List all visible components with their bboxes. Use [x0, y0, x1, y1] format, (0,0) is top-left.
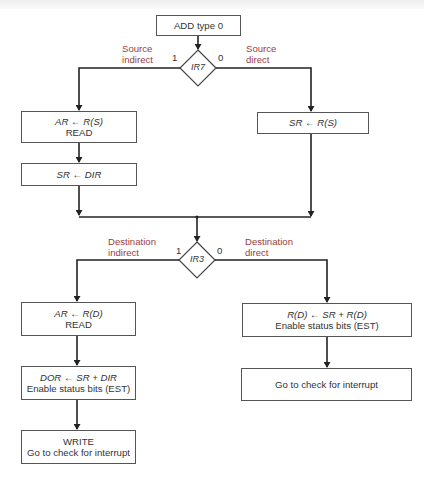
label-line: Destination [245, 236, 293, 247]
label-line: Source [246, 43, 276, 54]
box-line: AR ← R(D) [54, 308, 103, 320]
box-line: READ [65, 319, 92, 331]
arrow-ir7-to-source-direct [216, 68, 311, 111]
box-check-interrupt: Go to check for interrupt [241, 368, 412, 401]
box-line: AR ← R(S) [55, 116, 103, 128]
arrow-ir3-to-dest-indirect [77, 260, 179, 301]
label-destination-indirect: Destination indirect [108, 236, 156, 258]
ir3-true-bit: 1 [176, 245, 181, 256]
box-line: READ [66, 127, 93, 139]
decision-ir7-label: IR7 [183, 62, 213, 72]
label-destination-direct: Destination direct [245, 236, 293, 258]
box-line: WRITE [63, 436, 94, 448]
left-arrow-icon: ← [64, 372, 74, 383]
arrow-ir3-to-dest-direct [215, 260, 327, 302]
left-arrow-icon: ← [73, 169, 83, 180]
left-arrow-icon: ← [305, 117, 315, 128]
box-line: Enable status bits (EST) [275, 320, 378, 332]
ir7-false-bit: 0 [218, 52, 223, 63]
box-text: ADD type 0 [174, 20, 223, 32]
box-line: SR ← R(S) [289, 117, 337, 129]
box-ar-from-rs: AR ← R(S) READ [21, 111, 137, 143]
box-rd-from-sr-plus-rd: R(D) ← SR + R(D) Enable status bits (EST… [242, 303, 412, 337]
label-line: indirect [122, 54, 153, 65]
box-line: Enable status bits (EST) [27, 383, 130, 395]
box-line: DOR ← SR + DIR [40, 372, 117, 384]
left-arrow-icon: ← [70, 308, 80, 319]
label-source-direct: Source direct [246, 43, 276, 65]
box-line: SR ← DIR [57, 169, 102, 181]
label-line: indirect [108, 247, 156, 258]
box-line: R(D) ← SR + R(D) [287, 309, 367, 321]
label-source-indirect: Source indirect [122, 43, 153, 65]
box-line: Go to check for interrupt [275, 379, 378, 391]
label-line: Source [122, 43, 153, 54]
label-line: direct [245, 247, 293, 258]
flow-connectors [0, 0, 424, 480]
label-line: direct [246, 54, 276, 65]
arrow-ir7-to-source-indirect [79, 68, 180, 110]
box-write-interrupt: WRITE Go to check for interrupt [21, 430, 136, 464]
start-box-add-type-0: ADD type 0 [156, 15, 241, 36]
left-arrow-icon: ← [310, 309, 320, 320]
decision-ir3-label: IR3 [182, 254, 212, 264]
ir3-false-bit: 0 [217, 245, 222, 256]
box-sr-from-rs: SR ← R(S) [257, 112, 369, 134]
label-line: Destination [108, 236, 156, 247]
box-sr-from-dir: SR ← DIR [21, 163, 137, 186]
box-line: Go to check for interrupt [27, 447, 130, 459]
box-dor-from-sr-plus-dir: DOR ← SR + DIR Enable status bits (EST) [21, 366, 136, 400]
left-arrow-icon: ← [71, 116, 81, 127]
box-ar-from-rd: AR ← R(D) READ [21, 302, 136, 336]
ir7-true-bit: 1 [172, 52, 177, 63]
